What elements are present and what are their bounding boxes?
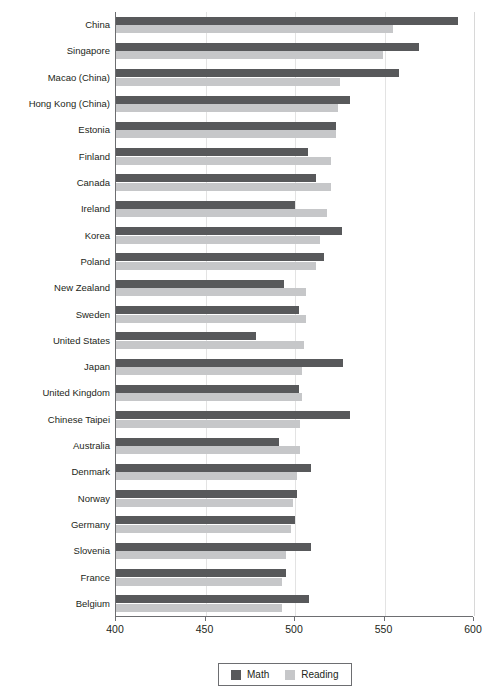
bar-chart: ChinaSingaporeMacao (China)Hong Kong (Ch… (0, 0, 501, 700)
bar-group (116, 17, 473, 34)
bar-group (116, 438, 473, 455)
category-label: Hong Kong (China) (0, 99, 110, 109)
legend-swatch-math (231, 670, 241, 680)
bar-group (116, 543, 473, 560)
category-label: Japan (0, 362, 110, 372)
bar-group (116, 69, 473, 86)
category-label: Belgium (0, 599, 110, 609)
bar-group (116, 569, 473, 586)
category-label: Norway (0, 494, 110, 504)
category-label: Poland (0, 257, 110, 267)
bar-reading (116, 78, 340, 86)
bar-reading (116, 104, 338, 112)
bar-group (116, 411, 473, 428)
category-label: Sweden (0, 310, 110, 320)
bar-reading (116, 341, 304, 349)
bar-math (116, 464, 311, 472)
bar-math (116, 174, 316, 182)
bar-math (116, 280, 284, 288)
bar-reading (116, 262, 316, 270)
bar-math (116, 543, 311, 551)
bar-math (116, 148, 308, 156)
bar-group (116, 174, 473, 191)
x-tick-label: 450 (196, 623, 214, 635)
legend-entry-reading[interactable]: Reading (285, 669, 338, 680)
bar-reading (116, 130, 336, 138)
bar-math (116, 490, 297, 498)
bar-reading (116, 25, 393, 33)
bar-reading (116, 446, 300, 454)
bar-math (116, 306, 299, 314)
bar-group (116, 122, 473, 139)
bar-math (116, 96, 350, 104)
category-label: China (0, 20, 110, 30)
bar-math (116, 69, 399, 77)
bar-reading (116, 420, 300, 428)
x-tick-mark-600 (473, 617, 474, 621)
bar-group (116, 227, 473, 244)
x-tick-label: 550 (375, 623, 393, 635)
bar-math (116, 385, 299, 393)
category-label: Ireland (0, 204, 110, 214)
category-label: France (0, 573, 110, 583)
bar-math (116, 122, 336, 130)
bar-math (116, 569, 286, 577)
bar-reading (116, 578, 282, 586)
legend-entry-math[interactable]: Math (231, 669, 269, 680)
bar-group (116, 43, 473, 60)
bar-group (116, 306, 473, 323)
category-label: Australia (0, 441, 110, 451)
bar-reading (116, 51, 383, 59)
bar-group (116, 280, 473, 297)
category-label: United Kingdom (0, 388, 110, 398)
bar-reading (116, 499, 293, 507)
x-tick-label: 500 (285, 623, 303, 635)
chart-legend: MathReading (218, 663, 352, 686)
bar-reading (116, 525, 291, 533)
category-label: Canada (0, 178, 110, 188)
bar-group (116, 385, 473, 402)
bar-group (116, 96, 473, 113)
bar-rows (116, 12, 473, 616)
bar-group (116, 332, 473, 349)
bar-math (116, 595, 309, 603)
category-label: Germany (0, 520, 110, 530)
bar-math (116, 43, 419, 51)
bar-group (116, 464, 473, 481)
bar-reading (116, 604, 282, 612)
bar-math (116, 227, 342, 235)
x-tick-mark-550 (384, 617, 385, 621)
bar-reading (116, 157, 331, 165)
bar-reading (116, 236, 320, 244)
x-tick-mark-450 (205, 617, 206, 621)
bar-math (116, 438, 279, 446)
bar-group (116, 148, 473, 165)
bar-math (116, 359, 343, 367)
bar-reading (116, 393, 302, 401)
x-tick-label: 400 (106, 623, 124, 635)
bar-reading (116, 183, 331, 191)
bar-math (116, 411, 350, 419)
bar-math (116, 17, 458, 25)
bar-math (116, 332, 256, 340)
bar-group (116, 359, 473, 376)
category-label: Macao (China) (0, 73, 110, 83)
legend-label: Reading (301, 669, 338, 680)
x-axis-ticks: 400450500550600 (115, 617, 473, 639)
legend-label: Math (247, 669, 269, 680)
x-tick-mark-400 (115, 617, 116, 621)
bar-group (116, 516, 473, 533)
category-label: Slovenia (0, 546, 110, 556)
plot-area (115, 12, 473, 617)
category-label: Estonia (0, 125, 110, 135)
category-label: New Zealand (0, 283, 110, 293)
category-label: Chinese Taipei (0, 415, 110, 425)
x-tick-label: 600 (464, 623, 482, 635)
bar-reading (116, 551, 286, 559)
bar-reading (116, 367, 302, 375)
bar-group (116, 201, 473, 218)
category-label: Finland (0, 152, 110, 162)
bar-math (116, 253, 324, 261)
category-label: Singapore (0, 46, 110, 56)
category-label: Denmark (0, 467, 110, 477)
